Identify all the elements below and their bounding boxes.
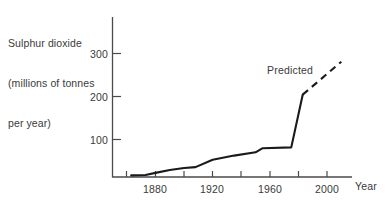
axis-lines: [113, 17, 353, 178]
chart-figure: Sulphur dioxide (millions of tonnes per …: [0, 0, 388, 211]
series-observed-line: [131, 95, 303, 176]
series-predicted-line: [303, 62, 342, 95]
chart-plot-area: [0, 0, 388, 211]
y-axis-ticks: [113, 54, 122, 140]
